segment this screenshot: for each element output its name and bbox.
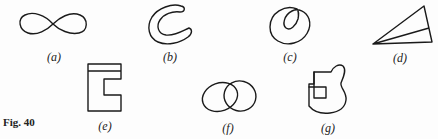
figure-drawings: [0, 0, 438, 139]
figure-40: (a) (b) (c) (d) (e) (f) (g) Fig. 40: [0, 0, 438, 139]
shape-g-square: [309, 72, 326, 98]
label-a: (a): [47, 50, 61, 65]
shape-d-triangle: [373, 6, 432, 44]
shape-a-infinity: [20, 13, 86, 33]
shape-c-loop: [270, 8, 310, 44]
label-d: (d): [393, 51, 407, 66]
label-c: (c): [283, 50, 296, 65]
shape-b-c-band: [149, 5, 192, 44]
label-g: (g): [321, 121, 335, 136]
label-b: (b): [163, 50, 177, 65]
label-f: (f): [222, 121, 233, 136]
shape-e-notched-rect: [88, 64, 121, 111]
label-e: (e): [98, 119, 111, 134]
figure-caption: Fig. 40: [3, 116, 35, 128]
